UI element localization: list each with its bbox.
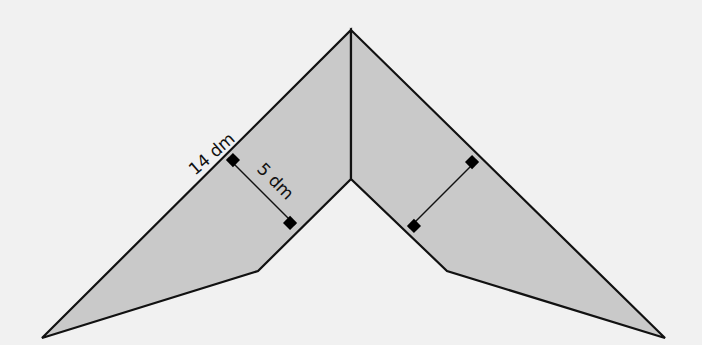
left-quadrilateral (42, 30, 351, 338)
right-quadrilateral (351, 30, 665, 338)
geometry-figure: 14 dm 5 dm (0, 0, 702, 345)
